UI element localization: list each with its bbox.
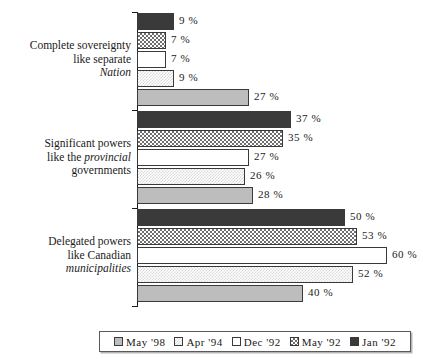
group-label-line-italic: municipalities (0, 262, 131, 276)
legend-swatch-icon (174, 337, 183, 346)
group-label-line: like the provincial (0, 151, 131, 165)
legend-label: Apr '94 (186, 336, 222, 348)
bar-dec92 (137, 51, 166, 68)
legend-label: May '98 (126, 336, 165, 348)
axis-tick (132, 306, 137, 307)
bar-dec92 (137, 149, 249, 166)
bar-value-jan92: 50 % (350, 210, 375, 222)
legend-swatch-icon (232, 337, 241, 346)
bar-may92 (137, 32, 166, 49)
group-label-line: Delegated powers (0, 235, 131, 249)
bar-value-dec92: 27 % (254, 150, 279, 162)
group-label-significant-powers: Significant powers like the provincial g… (0, 137, 131, 178)
bar-may92 (137, 130, 283, 147)
bar-value-jan92: 37 % (296, 112, 321, 124)
bar-value-may98: 40 % (308, 286, 333, 298)
bar-may98 (137, 285, 303, 302)
group-label-delegated-powers: Delegated powers like Canadian municipal… (0, 235, 131, 276)
group-label-complete-sovereignty: Complete sovereignty like separate Natio… (0, 39, 131, 80)
bar-apr94 (137, 70, 174, 87)
bar-value-may92: 35 % (288, 131, 313, 143)
plot-area: Complete sovereignty like separate Natio… (0, 0, 423, 320)
group-label-line: like Canadian (0, 249, 131, 263)
group-label-text-italic: provincial (84, 151, 131, 163)
group-label-line: like separate (0, 53, 131, 67)
group-label-line: Significant powers (0, 137, 131, 151)
legend-swatch-icon (350, 337, 359, 346)
legend-item-apr94[interactable]: Apr '94 (174, 336, 222, 348)
bar-value-jan92: 9 % (179, 14, 198, 26)
group-label-line: governments (0, 164, 131, 178)
bar-may98 (137, 187, 253, 204)
legend-label: Dec '92 (244, 336, 281, 348)
legend-label: Jan '92 (362, 336, 396, 348)
legend-label: May '92 (302, 336, 341, 348)
bar-value-may92: 53 % (362, 229, 387, 241)
bar-value-apr94: 9 % (179, 71, 198, 83)
legend-item-may92[interactable]: May '92 (290, 336, 341, 348)
legend-item-jan92[interactable]: Jan '92 (350, 336, 396, 348)
grouped-bar-chart: Complete sovereignty like separate Natio… (0, 0, 423, 359)
bar-apr94 (137, 266, 353, 283)
bar-value-may92: 7 % (171, 33, 190, 45)
group-label-text: like the (47, 151, 84, 163)
bar-value-apr94: 26 % (250, 169, 275, 181)
bar-apr94 (137, 168, 245, 185)
bar-jan92 (137, 13, 174, 30)
bar-value-dec92: 7 % (171, 52, 190, 64)
legend-swatch-icon (290, 337, 299, 346)
bar-dec92 (137, 247, 387, 264)
bar-value-dec92: 60 % (392, 248, 417, 260)
bar-value-apr94: 52 % (358, 267, 383, 279)
bar-jan92 (137, 209, 345, 226)
legend-swatch-icon (114, 337, 123, 346)
legend-item-may98[interactable]: May '98 (114, 336, 165, 348)
bar-may92 (137, 228, 357, 245)
bar-jan92 (137, 111, 291, 128)
bar-value-may98: 27 % (254, 90, 279, 102)
group-label-line-italic: Nation (0, 66, 131, 80)
bar-value-may98: 28 % (258, 188, 283, 200)
legend-item-dec92[interactable]: Dec '92 (232, 336, 281, 348)
bar-may98 (137, 89, 249, 106)
group-label-line: Complete sovereignty (0, 39, 131, 53)
chart-legend: May '98 Apr '94 Dec '92 May '92 Jan '92 (99, 331, 411, 352)
